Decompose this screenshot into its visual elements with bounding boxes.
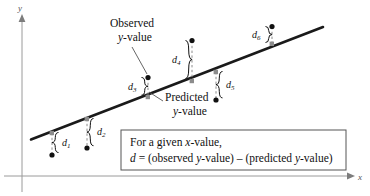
predicted-callout-line1: Predicted	[165, 91, 209, 103]
residual-d5-predicted-marker	[214, 70, 218, 74]
residual-d6-label: d6	[252, 29, 261, 42]
predicted-callout-leader	[149, 92, 163, 101]
residual-d6-observed-point	[269, 24, 274, 29]
residual-d1-observed-point	[49, 152, 54, 157]
residual-d3-brace	[142, 78, 149, 96]
residual-d5-observed-point	[213, 97, 218, 102]
residual-d4-predicted-marker	[190, 79, 194, 83]
definition-line1-post: -value,	[190, 136, 222, 149]
observed-callout-line2: y-value	[117, 31, 152, 44]
definition-line2-mid: -value) – (predicted	[201, 152, 295, 165]
residual-d1: d1	[49, 131, 70, 158]
observed-callout-y-rest: -value	[123, 31, 152, 43]
y-axis-label: y	[17, 3, 22, 13]
residual-d2-observed-point	[84, 145, 89, 150]
residual-d6-predicted-marker	[270, 42, 274, 46]
x-axis-label: x	[357, 172, 362, 182]
residual-d2: d2	[84, 117, 106, 151]
observed-callout-line1: Observed	[110, 17, 154, 29]
residual-d3-observed-point	[145, 75, 150, 80]
definition-line2-eq: = (observed	[136, 152, 196, 165]
figure-canvas: y x d1 d2	[0, 0, 370, 196]
predicted-callout-line2: y-value	[172, 105, 207, 118]
residual-d3-predicted-marker	[146, 95, 150, 99]
observed-callout: Observed y-value	[110, 17, 154, 74]
definition-line1-pre: For a given	[130, 136, 185, 149]
x-axis-arrowhead	[347, 173, 355, 180]
regression-line	[31, 27, 323, 140]
residual-d2-brace	[87, 119, 94, 146]
residual-d3: d3	[128, 75, 151, 99]
definition-line2-end: -value)	[300, 152, 333, 165]
residual-d1-predicted-marker	[50, 131, 54, 135]
regression-residual-figure: y x d1 d2	[0, 0, 370, 196]
definition-box-line1: For a given x-value,	[130, 136, 222, 149]
residual-d4-observed-point	[189, 38, 194, 43]
observed-callout-leader	[132, 47, 147, 74]
y-axis-arrowhead	[19, 14, 26, 22]
residual-d3-label: d3	[128, 81, 137, 94]
residual-d2-predicted-marker	[85, 117, 89, 121]
residual-d2-label: d2	[97, 126, 106, 139]
residual-d5-label: d5	[226, 79, 235, 92]
residual-d5-brace	[216, 72, 223, 98]
predicted-callout-y-rest: -value	[178, 105, 207, 117]
definition-box-line2: d = (observed y-value) – (predicted y-va…	[130, 152, 333, 165]
residual-d4-brace	[186, 41, 193, 79]
definition-box: For a given x-value, d = (observed y-val…	[121, 130, 346, 170]
residual-d4-label: d4	[172, 54, 181, 67]
predicted-callout: Predicted y-value	[149, 91, 209, 118]
residual-d6: d6	[252, 24, 275, 46]
residual-d1-brace	[52, 133, 59, 153]
residual-d1-label: d1	[62, 137, 71, 150]
residual-d5: d5	[213, 70, 235, 103]
